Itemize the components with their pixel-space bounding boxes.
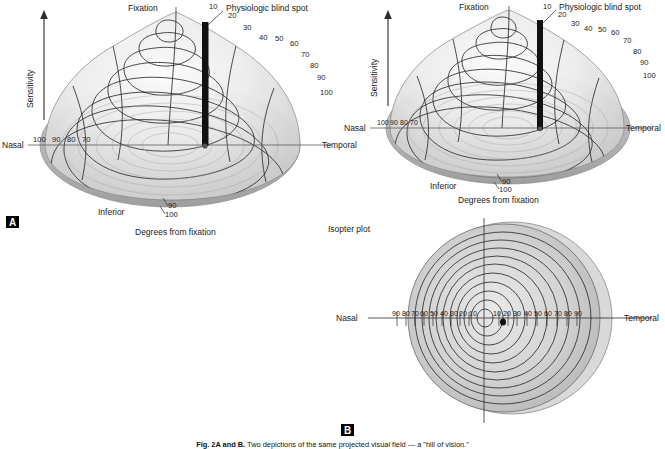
panel-a-letter: A <box>6 216 19 228</box>
figure-caption-bold: Fig. 2A and B. <box>196 440 245 449</box>
panel-a-ring-label-60: 60 <box>290 40 298 48</box>
panel-b: Sensitivity Fixation Physiologic blind s… <box>340 0 665 449</box>
panel-a-nasal-label: Nasal <box>2 141 24 150</box>
panel-b-blind-spot-column <box>537 20 543 131</box>
panel-a-ring-label-90: 90 <box>317 74 325 82</box>
isopter-blind-spot-marker <box>500 318 506 325</box>
isopter-tick-temporal-10: 10 <box>493 310 501 317</box>
panel-a-fixation-label: Fixation <box>128 4 158 13</box>
panel-b-ring-label-10: 10 <box>543 3 551 11</box>
panel-a-y-axis-label: Sensitivity <box>26 70 35 108</box>
isopter-tick-temporal-50: 50 <box>534 310 542 317</box>
panel-b-ring-label-30: 30 <box>571 20 579 28</box>
panel-a-inferior-tick-90: 90 <box>168 202 176 210</box>
panel-b-fixation-label: Fixation <box>459 3 489 12</box>
isopter-tick-temporal-60: 60 <box>544 310 552 317</box>
panel-b-nasal-tick-70: 70 <box>410 119 418 126</box>
isopter-tick-nasal-30: 30 <box>450 310 458 317</box>
panel-b-y-axis-label: Sensitivity <box>370 59 379 97</box>
figure-root: Sensitivity Fixation Physiologic blind s… <box>0 0 665 449</box>
panel-b-blindspot-leader <box>543 10 556 23</box>
isopter-tick-temporal-90: 90 <box>574 310 582 317</box>
panel-a-inferior-tick-100: 100 <box>165 211 178 219</box>
isopter-tick-temporal-80: 80 <box>564 310 572 317</box>
isopter-tick-nasal-70: 70 <box>411 310 419 317</box>
panel-a-x-axis-label: Degrees from fixation <box>135 228 216 237</box>
panel-b-nasal-tick-100: 100 <box>377 119 389 126</box>
figure-caption-rest: Two depictions of the same projected vis… <box>245 440 469 449</box>
isopter-tick-temporal-20: 20 <box>503 310 511 317</box>
panel-a-ring-label-100: 100 <box>320 89 333 97</box>
panel-a-ring-label-80: 80 <box>310 62 318 70</box>
panel-b-blindspot-label: Physiologic blind spot <box>559 3 641 12</box>
panel-a-nasal-tick-100: 100 <box>33 136 46 144</box>
panel-b-x-axis-label: Degrees from fixation <box>458 196 539 205</box>
isopter-tick-temporal-30: 30 <box>513 310 521 317</box>
panel-b-ring-label-90: 90 <box>640 59 648 67</box>
isopter-temporal-label: Temporal <box>624 314 659 323</box>
panel-b-sensitivity-arrow <box>384 10 392 106</box>
panel-b-ring-label-80: 80 <box>633 48 641 56</box>
panel-a-nasal-tick-70: 70 <box>82 136 90 144</box>
isopter-tick-nasal-80: 80 <box>402 310 410 317</box>
panel-b-inferior-tick-100: 100 <box>499 186 512 194</box>
isopter-tick-nasal-40: 40 <box>440 310 448 317</box>
isopter-tick-nasal-60: 60 <box>420 310 428 317</box>
panel-b-temporal-label: Temporal <box>626 124 661 133</box>
panel-a-blindspot-label: Physiologic blind spot <box>226 4 308 13</box>
panel-a-ring-label-70: 70 <box>301 51 309 59</box>
panel-a-ring-label-50: 50 <box>275 35 283 43</box>
panel-b-letter: B <box>341 424 354 436</box>
panel-a-nasal-tick-90: 90 <box>52 136 60 144</box>
panel-b-ring-label-50: 50 <box>598 26 606 34</box>
panel-a-blind-spot-column <box>202 22 209 149</box>
isopter-tick-temporal-70: 70 <box>554 310 562 317</box>
isopter-tick-nasal-20: 20 <box>459 310 467 317</box>
panel-a-ring-label-40: 40 <box>259 34 267 42</box>
panel-a-inferior-label: Inferior <box>98 208 124 217</box>
panel-b-inferior-label: Inferior <box>430 182 456 191</box>
panel-a-ring-label-30: 30 <box>243 24 251 32</box>
isopter-nasal-label: Nasal <box>336 314 358 323</box>
isopter-tick-nasal-10: 10 <box>469 310 477 317</box>
panel-a-sensitivity-arrow <box>40 10 48 120</box>
panel-b-nasal-label: Nasal <box>344 124 366 133</box>
panel-a-hill-surface <box>45 12 300 231</box>
panel-b-ring-label-60: 60 <box>611 29 619 37</box>
panel-a-ring-label-10: 10 <box>209 3 217 11</box>
panel-b-ring-label-70: 70 <box>623 37 631 45</box>
panel-a-ring-label-20: 20 <box>228 12 236 20</box>
isopter-tick-nasal-50: 50 <box>430 310 438 317</box>
panel-b-nasal-tick-80: 80 <box>400 119 408 126</box>
panel-b-ring-label-100: 100 <box>643 72 656 80</box>
panel-a-blindspot-leader <box>208 11 223 25</box>
panel-a: Sensitivity Fixation Physiologic blind s… <box>0 0 340 240</box>
isopter-plot <box>340 218 665 433</box>
panel-b-nasal-tick-90: 90 <box>390 119 398 126</box>
isopter-tick-nasal-90: 90 <box>392 310 400 317</box>
panel-b-ring-label-20: 20 <box>558 11 566 19</box>
panel-a-nasal-tick-80: 80 <box>67 136 75 144</box>
isopter-tick-temporal-40: 40 <box>524 310 532 317</box>
panel-b-ring-label-40: 40 <box>584 25 592 33</box>
figure-caption: Fig. 2A and B. Two depictions of the sam… <box>0 440 665 449</box>
